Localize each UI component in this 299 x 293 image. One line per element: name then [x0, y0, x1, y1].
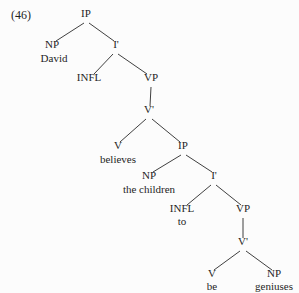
node-ip2: IP — [178, 140, 188, 151]
tree-edge-vbar1-ip2 — [152, 119, 180, 142]
terminal-believes: believes — [100, 154, 136, 165]
node-vp2: VP — [236, 203, 250, 214]
node-vbar1: V' — [144, 104, 154, 115]
node-v1: V — [114, 140, 122, 151]
tree-edge-ip1-ibar1 — [89, 23, 114, 41]
tree-edge-ip1-np1 — [56, 23, 84, 41]
node-v2: V — [208, 268, 216, 279]
terminal-geniuses: geniuses — [255, 281, 293, 292]
node-np1: NP — [45, 39, 59, 50]
terminal-david: David — [41, 53, 68, 64]
terminal-to: to — [178, 216, 187, 227]
node-ip1: IP — [81, 8, 91, 19]
node-infl1: INFL — [77, 72, 101, 83]
tree-edge-ibar1-vp1 — [118, 54, 147, 74]
node-ibar2: I' — [211, 170, 217, 181]
node-vp1: VP — [144, 72, 158, 83]
terminal-children: the children — [123, 184, 175, 195]
syntax-tree-figure: (46) IPNPDavidI'INFLVPV'VbelievesIPNPthe… — [0, 0, 299, 293]
node-np2: NP — [142, 170, 156, 181]
node-ibar1: I' — [113, 39, 119, 50]
tree-edge-vbar1-v1 — [120, 119, 146, 142]
node-np3: NP — [267, 268, 281, 279]
tree-edge-vbar2-v2 — [214, 251, 240, 270]
tree-edge-ip2-np2 — [153, 155, 181, 172]
tree-edge-ip2-ibar2 — [186, 155, 212, 172]
node-vbar2: V' — [238, 236, 248, 247]
node-infl2: INFL — [170, 203, 194, 214]
terminal-be: be — [207, 281, 217, 292]
